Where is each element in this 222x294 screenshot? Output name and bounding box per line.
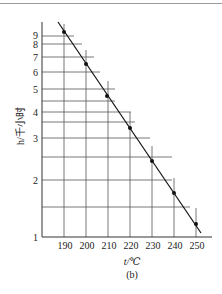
svg-text:1: 1 [33, 232, 38, 243]
svg-text:4: 4 [33, 107, 38, 118]
x-axis-label: t/℃ [124, 256, 141, 267]
svg-text:9: 9 [33, 30, 38, 41]
svg-text:190: 190 [58, 240, 73, 251]
svg-text:5: 5 [33, 84, 38, 95]
svg-text:200: 200 [80, 240, 95, 251]
svg-text:240: 240 [168, 240, 183, 251]
v-gridlines [64, 24, 196, 237]
svg-text:2: 2 [33, 175, 38, 186]
y-tick-labels: 1 2 3 4 5 6 7 8 9 [33, 30, 38, 243]
svg-text:250: 250 [190, 240, 205, 251]
svg-text:230: 230 [146, 240, 161, 251]
x-tick-labels: 190 200 210 220 230 240 250 [58, 240, 205, 251]
figure-caption: (b) [126, 269, 138, 281]
y-axis-label: h/千小时 [15, 107, 26, 145]
svg-text:220: 220 [124, 240, 139, 251]
chart: 1 2 3 4 5 6 7 8 9 190 200 210 220 230 24… [0, 0, 222, 294]
svg-text:7: 7 [33, 52, 38, 63]
svg-text:6: 6 [33, 67, 38, 78]
svg-text:3: 3 [33, 133, 38, 144]
svg-text:210: 210 [102, 240, 117, 251]
